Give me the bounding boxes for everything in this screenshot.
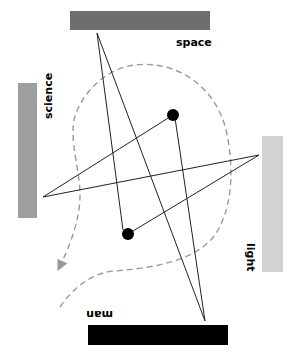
man-bar [88, 325, 228, 345]
light-bar [262, 136, 283, 272]
upper-dot [167, 109, 179, 121]
diagram-canvas: space science light man [0, 0, 296, 363]
man-label: man [86, 308, 113, 321]
science-label: science [42, 73, 55, 119]
space-label: space [176, 36, 212, 49]
lower-dot [122, 228, 134, 240]
light-label: light [244, 243, 257, 272]
space-bar [70, 11, 210, 30]
connector-lines [43, 33, 259, 321]
dashed-arrow-path [60, 64, 231, 307]
science-bar [18, 83, 37, 218]
